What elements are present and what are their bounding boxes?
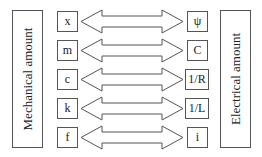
double-arrow-icon — [81, 39, 183, 62]
double-arrow-icon — [81, 126, 183, 149]
double-arrow-icon — [81, 10, 183, 33]
double-arrow-group — [0, 0, 262, 157]
double-arrow-icon — [81, 68, 183, 91]
double-arrow-icon — [81, 97, 183, 120]
